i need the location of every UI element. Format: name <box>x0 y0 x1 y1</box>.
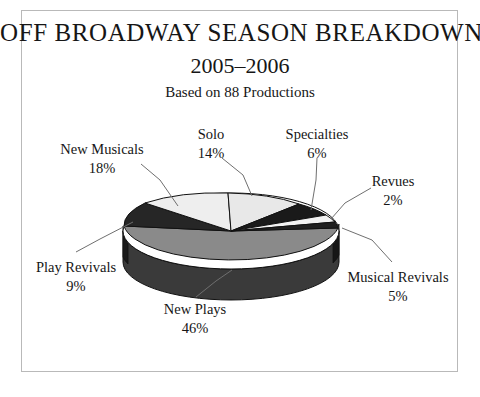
slice-label-revues-pct: 2% <box>358 191 428 210</box>
slice-label-solo: Solo 14% <box>180 125 242 162</box>
slice-label-new-plays-name: New Plays <box>164 301 226 317</box>
chart-page: OFF BROADWAY SEASON BREAKDOWN 2005–2006 … <box>0 0 480 397</box>
title-years: 2005–2006 <box>0 54 480 77</box>
title-subtitle: Based on 88 Productions <box>0 85 480 101</box>
slice-label-solo-name: Solo <box>198 126 225 142</box>
slice-label-new-plays-pct: 46% <box>150 319 240 338</box>
page-title: OFF BROADWAY SEASON BREAKDOWN <box>0 20 480 46</box>
slice-label-specialties: Specialties 6% <box>272 125 362 162</box>
slice-label-musical-revivals: Musical Revivals 5% <box>338 268 458 305</box>
slice-label-new-plays: New Plays 46% <box>150 300 240 337</box>
slice-label-new-musicals-pct: 18% <box>42 159 162 178</box>
slice-label-play-revivals: Play Revivals 9% <box>24 258 128 295</box>
slice-label-revues: Revues 2% <box>358 172 428 209</box>
slice-label-specialties-name: Specialties <box>286 126 349 142</box>
slice-label-new-musicals-name: New Musicals <box>60 141 143 157</box>
slice-label-solo-pct: 14% <box>180 144 242 163</box>
slice-label-play-revivals-pct: 9% <box>24 277 128 296</box>
slice-label-musical-revivals-name: Musical Revivals <box>347 269 448 285</box>
slice-label-revues-name: Revues <box>372 173 415 189</box>
slice-label-specialties-pct: 6% <box>272 144 362 163</box>
slice-label-play-revivals-name: Play Revivals <box>36 259 116 275</box>
slice-label-new-musicals: New Musicals 18% <box>42 140 162 177</box>
slice-label-musical-revivals-pct: 5% <box>338 287 458 306</box>
